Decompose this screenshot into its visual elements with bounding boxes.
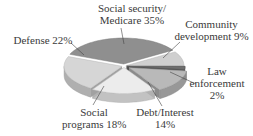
label-line: 14% — [130, 118, 200, 130]
label-debt-interest: Debt/Interest 14% — [130, 106, 200, 130]
label-law-enforcement: Law enforcement 2% — [187, 65, 247, 101]
label-line: enforcement — [187, 77, 247, 89]
label-social-programs: Social programs 18% — [62, 106, 126, 130]
label-defense: Defense 22% — [10, 34, 76, 46]
label-social-security: Social security/ Medicare 35% — [92, 2, 172, 26]
label-line: Medicare 35% — [92, 14, 172, 26]
label-community-development: Community development 9% — [170, 18, 253, 42]
label-line: programs 18% — [62, 118, 126, 130]
label-line: development 9% — [170, 30, 253, 42]
label-line: Debt/Interest — [130, 106, 200, 118]
label-line: Social — [62, 106, 126, 118]
label-line: Social security/ — [92, 2, 172, 14]
pie-tops — [64, 38, 186, 94]
label-line: 2% — [187, 89, 247, 101]
label-line: Defense 22% — [10, 34, 76, 46]
label-line: Law — [187, 65, 247, 77]
label-line: Community — [170, 18, 253, 30]
